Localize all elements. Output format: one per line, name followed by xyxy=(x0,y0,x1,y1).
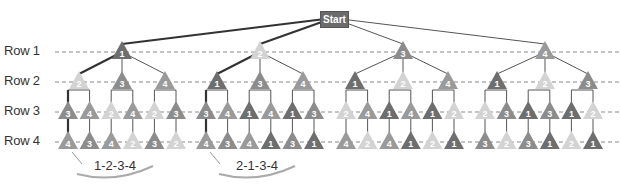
svg-text:1: 1 xyxy=(387,109,392,119)
svg-text:3: 3 xyxy=(547,109,552,119)
svg-text:2: 2 xyxy=(400,79,405,89)
node-row2: 2 xyxy=(535,71,555,89)
node-row3: 2 xyxy=(101,101,121,119)
node-row2: 1 xyxy=(487,71,507,89)
edge-row2-row3 xyxy=(249,90,271,104)
svg-text:3: 3 xyxy=(87,139,92,149)
node-row4: 3 xyxy=(282,131,302,149)
edge-start-row1 xyxy=(333,18,545,44)
node-row4: 4 xyxy=(101,131,121,149)
node-row3: 4 xyxy=(80,101,100,119)
node-row3: 4 xyxy=(261,101,281,119)
node-row3: 3 xyxy=(304,101,324,119)
node-row4: 2 xyxy=(166,131,186,149)
node-row4: 4 xyxy=(379,131,399,149)
edge-row2-row3 xyxy=(432,90,454,104)
node-row4: 2 xyxy=(561,131,581,149)
node-row4: 4 xyxy=(196,131,216,149)
svg-text:2: 2 xyxy=(109,109,114,119)
svg-text:2: 2 xyxy=(542,79,547,89)
node-row3: 3 xyxy=(166,101,186,119)
svg-text:1: 1 xyxy=(494,79,499,89)
node-row3: 4 xyxy=(123,101,143,119)
node-row3: 1 xyxy=(518,101,538,119)
svg-text:1: 1 xyxy=(119,49,124,59)
node-row3: 1 xyxy=(379,101,399,119)
svg-text:2: 2 xyxy=(430,139,435,149)
node-row4: 1 xyxy=(304,131,324,149)
svg-text:4: 4 xyxy=(65,139,70,149)
pointer-line xyxy=(210,152,220,164)
svg-text:3: 3 xyxy=(225,139,230,149)
svg-text:3: 3 xyxy=(65,109,70,119)
svg-text:3: 3 xyxy=(152,139,157,149)
permutation-tree-diagram: 1234234134124123342423341413241412231312… xyxy=(0,0,621,194)
svg-text:2: 2 xyxy=(130,139,135,149)
svg-text:1: 1 xyxy=(408,139,413,149)
node-row2: 3 xyxy=(578,71,598,89)
node-row2: 1 xyxy=(207,71,227,89)
svg-text:2: 2 xyxy=(482,109,487,119)
node-row3: 4 xyxy=(358,101,378,119)
node-row4: 3 xyxy=(80,131,100,149)
svg-text:1: 1 xyxy=(214,79,219,89)
node-row3: 4 xyxy=(401,101,421,119)
row-label-2: Row 2 xyxy=(4,73,40,88)
svg-text:4: 4 xyxy=(365,109,370,119)
svg-text:2: 2 xyxy=(365,139,370,149)
edge-row2-row3 xyxy=(346,90,368,104)
node-row3: 2 xyxy=(144,101,164,119)
node-row4: 2 xyxy=(422,131,442,149)
edge-row2-row3 xyxy=(389,90,411,104)
row-label-4: Row 4 xyxy=(4,133,40,148)
svg-text:1: 1 xyxy=(247,109,252,119)
node-row3: 2 xyxy=(444,101,464,119)
node-row4: 3 xyxy=(475,131,495,149)
node-row2: 4 xyxy=(293,71,313,89)
svg-text:2: 2 xyxy=(590,109,595,119)
node-row2: 4 xyxy=(438,71,458,89)
node-row4: 1 xyxy=(401,131,421,149)
edge-row2-row3 xyxy=(111,90,133,104)
node-row3: 3 xyxy=(497,101,517,119)
svg-text:3: 3 xyxy=(203,109,208,119)
node-row4: 1 xyxy=(444,131,464,149)
svg-text:1: 1 xyxy=(547,139,552,149)
svg-text:2: 2 xyxy=(504,139,509,149)
edge-row2-row3 xyxy=(154,90,176,104)
node-row3: 3 xyxy=(540,101,560,119)
row-label-3: Row 3 xyxy=(4,103,40,118)
node-row1: 3 xyxy=(393,41,413,59)
node-row2: 3 xyxy=(250,71,270,89)
svg-text:1: 1 xyxy=(430,109,435,119)
svg-text:1: 1 xyxy=(526,109,531,119)
svg-text:1: 1 xyxy=(352,79,357,89)
svg-text:4: 4 xyxy=(130,109,135,119)
svg-text:3: 3 xyxy=(504,109,509,119)
svg-text:4: 4 xyxy=(300,79,305,89)
svg-text:4: 4 xyxy=(247,139,252,149)
svg-text:4: 4 xyxy=(109,139,114,149)
svg-text:4: 4 xyxy=(225,109,230,119)
row-label-1: Row 1 xyxy=(4,43,40,58)
svg-text:4: 4 xyxy=(87,109,92,119)
svg-text:4: 4 xyxy=(542,49,547,59)
node-row3: 2 xyxy=(336,101,356,119)
svg-text:4: 4 xyxy=(343,139,348,149)
svg-text:1: 1 xyxy=(590,139,595,149)
svg-text:3: 3 xyxy=(526,139,531,149)
svg-text:1: 1 xyxy=(451,139,456,149)
node-row3: 3 xyxy=(196,101,216,119)
svg-text:2: 2 xyxy=(343,109,348,119)
svg-text:4: 4 xyxy=(445,79,450,89)
svg-text:4: 4 xyxy=(387,139,392,149)
node-row2: 4 xyxy=(155,71,175,89)
node-row3: 2 xyxy=(475,101,495,119)
svg-text:4: 4 xyxy=(162,79,167,89)
edge-start-row1 xyxy=(122,18,333,44)
node-row4: 3 xyxy=(518,131,538,149)
edge-row2-row3 xyxy=(485,90,507,104)
svg-text:2: 2 xyxy=(569,139,574,149)
node-row4: 3 xyxy=(218,131,238,149)
edge-row2-row3 xyxy=(68,90,90,104)
